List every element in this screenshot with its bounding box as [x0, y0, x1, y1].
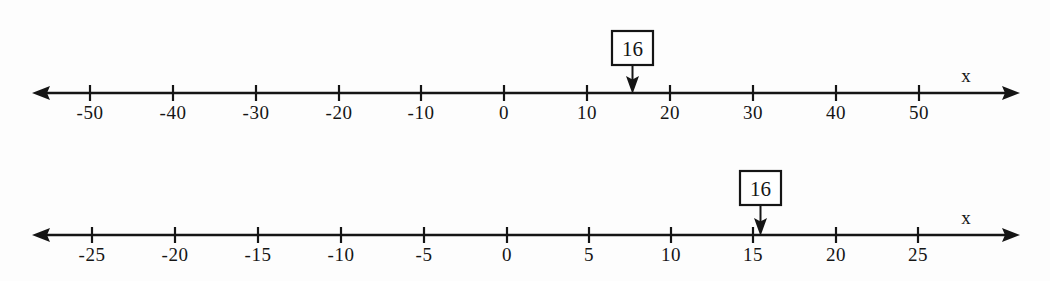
figure-canvas: x -50 -40 -30 -20 -10 0 10 20 30 40 50: [0, 0, 1050, 281]
tick-label: -40: [160, 102, 187, 123]
number-line-fine: x -25 -20 -15 -10 -5 0 5 10 15 20 25: [32, 171, 1020, 265]
tick-label: 5: [584, 244, 594, 265]
tick-label: 15: [743, 244, 763, 265]
tick-label: -10: [408, 102, 435, 123]
axis-variable-label-coarse: x: [961, 65, 971, 86]
tick-label: 50: [909, 102, 929, 123]
tick-label: 30: [743, 102, 763, 123]
number-line-coarse: x -50 -40 -30 -20 -10 0 10 20 30 40 50: [32, 31, 1020, 123]
tick-label: 20: [660, 102, 680, 123]
axis-variable-label-fine: x: [961, 207, 971, 228]
number-lines-figure: x -50 -40 -30 -20 -10 0 10 20 30 40 50: [0, 0, 1050, 281]
tick-label: 20: [826, 244, 846, 265]
value-callout-coarse: 16: [612, 31, 653, 94]
tick-label: 25: [908, 244, 928, 265]
tick-label: 10: [577, 102, 597, 123]
tick-label: 40: [826, 102, 846, 123]
tick-label: -10: [328, 244, 355, 265]
tick-label: -15: [245, 244, 272, 265]
tick-label: 0: [502, 244, 512, 265]
tick-label: 0: [499, 102, 509, 123]
callout-value-label: 16: [750, 177, 771, 201]
tick-label: 10: [661, 244, 681, 265]
tick-label: -30: [243, 102, 270, 123]
tick-label: -20: [162, 244, 189, 265]
tick-label: -50: [77, 102, 104, 123]
tick-label: -20: [326, 102, 353, 123]
tick-label: -5: [416, 244, 433, 265]
callout-value-label: 16: [622, 37, 643, 61]
tick-label: -25: [79, 244, 106, 265]
value-callout-fine: 16: [740, 171, 781, 236]
